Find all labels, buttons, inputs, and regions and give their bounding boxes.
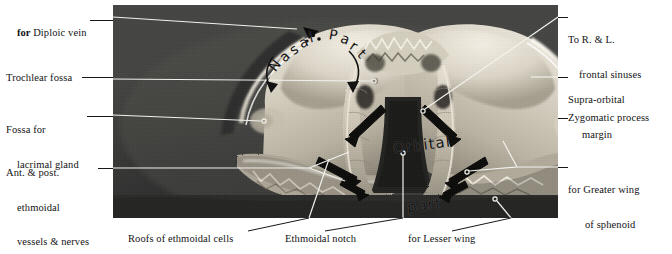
label-zygomatic-process: Zygomatic process <box>568 112 649 124</box>
leader-zygomatic-process <box>558 118 568 119</box>
label-greater-wing: for Greater wing of sphenoid <box>568 161 640 253</box>
leader-frontal-sinuses <box>558 17 568 18</box>
diploic-vein-prefix: for <box>17 27 33 38</box>
specimen-photograph: N a s a l P a r t Orbital part <box>113 5 558 218</box>
greater-wing-line2: of sphenoid <box>585 219 640 231</box>
label-nasal-part: N a s a l P a r t <box>261 21 411 81</box>
leader-greater-wing <box>558 167 568 168</box>
label-ethmoidal-notch: Ethmoidal notch <box>285 233 356 245</box>
ethmoidal-vessels-line3: vessels & nerves <box>17 236 89 248</box>
anatomical-plate: N a s a l P a r t Orbital part for Diplo… <box>0 0 672 254</box>
lacrimal-fossa-line1: Fossa for <box>6 124 79 136</box>
supra-orbital-line1: Supra-orbital <box>568 94 625 106</box>
label-trochlear-fossa: Trochlear fossa <box>6 72 72 84</box>
orbital-part-line2: part <box>406 193 452 216</box>
label-ethmoidal-vessels: Ant. & post. ethmoidal vessels & nerves <box>6 144 89 254</box>
label-ethmoidal-cells: Roofs of ethmoidal cells <box>128 233 233 245</box>
diploic-vein-text: Diploic vein <box>33 27 86 38</box>
leader-diploic-vein <box>90 20 113 21</box>
orbital-part-line1: Orbital <box>392 133 452 158</box>
leader-trochlear-fossa <box>82 77 113 78</box>
label-lesser-wing: for Lesser wing <box>408 233 475 245</box>
leader-ethmoidal-vessels <box>98 168 113 169</box>
greater-wing-line1: for Greater wing <box>568 184 640 196</box>
label-diploic-vein: for Diploic vein <box>6 15 87 50</box>
leader-supra-orbital <box>558 77 568 78</box>
ethmoidal-vessels-line2: ethmoidal <box>17 202 89 214</box>
leader-lacrimal-fossa <box>87 116 113 117</box>
frontal-sinuses-line1: To R. & L. <box>568 34 641 46</box>
label-orbital-part: Orbital part <box>393 100 451 218</box>
supra-orbital-line2: margin <box>582 129 625 141</box>
ethmoidal-vessels-line1: Ant. & post. <box>6 167 89 179</box>
